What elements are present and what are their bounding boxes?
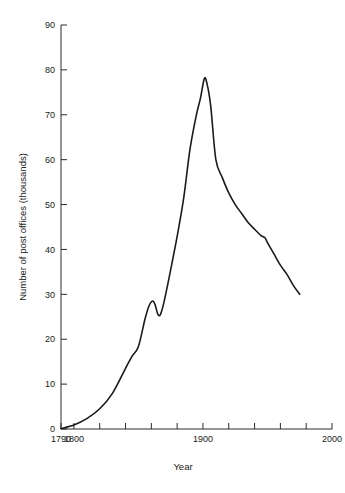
x-axis-title: Year xyxy=(173,461,192,472)
x-tick-label: 1900 xyxy=(193,434,213,444)
x-axis-ticks xyxy=(61,423,332,429)
y-tick-label: 60 xyxy=(45,155,55,165)
y-tick-label: 80 xyxy=(45,65,55,75)
post-offices-line-chart: 0102030405060708090 1790180019002000 Yea… xyxy=(0,0,345,493)
y-tick-label: 20 xyxy=(45,334,55,344)
chart-canvas: 0102030405060708090 1790180019002000 Yea… xyxy=(0,0,345,493)
y-tick-label: 70 xyxy=(45,110,55,120)
x-tick-label: 2000 xyxy=(322,434,342,444)
y-tick-label: 50 xyxy=(45,200,55,210)
y-axis-title: Number of post offices (thousands) xyxy=(17,153,28,301)
y-tick-label: 10 xyxy=(45,379,55,389)
x-tick-label: 1800 xyxy=(64,434,84,444)
x-axis: 1790180019002000 xyxy=(51,423,342,444)
data-series-line xyxy=(61,78,300,429)
y-tick-label: 90 xyxy=(45,20,55,30)
y-axis: 0102030405060708090 xyxy=(45,20,67,434)
y-axis-tick-labels: 0102030405060708090 xyxy=(45,20,55,434)
y-tick-label: 30 xyxy=(45,290,55,300)
y-tick-label: 0 xyxy=(50,424,55,434)
y-axis-ticks xyxy=(61,25,67,429)
x-axis-tick-labels: 1790180019002000 xyxy=(51,434,342,444)
y-tick-label: 40 xyxy=(45,245,55,255)
